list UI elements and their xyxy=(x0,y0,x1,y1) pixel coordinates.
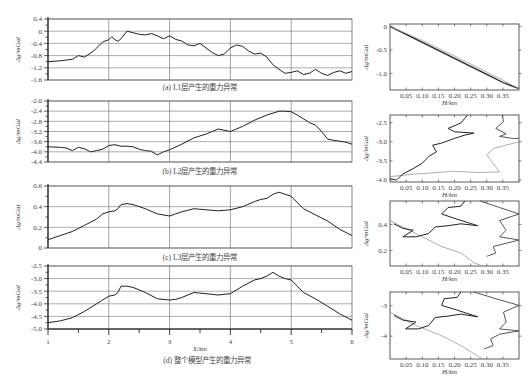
y-tick-label: -0.4 xyxy=(31,40,43,48)
y-axis-title: Δg/mGal xyxy=(362,44,370,70)
y-tick-label: -1.0 xyxy=(376,70,388,78)
y-tick-label: 0.4 xyxy=(33,15,42,23)
series-right xyxy=(480,201,519,256)
y-axis-title: Δg/mGal xyxy=(14,37,22,63)
y-tick-label: -0.8 xyxy=(31,52,43,60)
chart-a: 0.40-0.4-0.8-1.2-1.6Δg/mGal xyxy=(14,15,352,84)
x-axis-title: X/km xyxy=(192,345,207,353)
x-tick-label: 0.05 xyxy=(400,92,413,100)
y-axis-title: Δg/mGal xyxy=(362,136,370,162)
chart-c-right: 0.050.100.150.200.250.300.35H/km0.40.2Δg… xyxy=(362,201,522,283)
y-axis-title: Δg/mGal xyxy=(362,313,370,339)
x-tick-label: 0.05 xyxy=(400,268,413,276)
data-line xyxy=(48,111,352,155)
y-tick-label: -2.5 xyxy=(31,262,43,270)
series-right xyxy=(474,292,519,349)
chart-c: 0.60.40.20Δg/mGal xyxy=(14,182,352,252)
y-tick-label: -3.6 xyxy=(31,138,43,146)
x-tick-label: 0.30 xyxy=(481,184,494,192)
x-tick-label: 0.10 xyxy=(416,268,429,276)
y-tick-label: -4.5 xyxy=(31,313,43,321)
y-tick-label: 0.2 xyxy=(33,224,42,232)
y-tick-label: -5.0 xyxy=(31,325,43,333)
right-depth-charts: 0.050.100.150.200.250.300.35H/km0-0.5-1.… xyxy=(362,23,522,376)
y-tick-label: -3.2 xyxy=(31,128,43,136)
caption-b: (b) L2层产生的重力异常 xyxy=(163,166,238,176)
caption-a: (a) L1层产生的重力异常 xyxy=(163,82,238,92)
y-tick-label: -4.0 xyxy=(31,300,43,308)
y-tick-label: -3.5 xyxy=(376,157,388,165)
y-tick-label: -3.5 xyxy=(31,288,43,296)
caption-c: (c) L3层产生的重力异常 xyxy=(163,252,238,262)
y-tick-label: 0.4 xyxy=(33,203,42,211)
x-tick-label: 0.30 xyxy=(481,361,494,369)
data-line xyxy=(48,272,352,322)
data-line xyxy=(48,192,352,240)
y-tick-label: 0.6 xyxy=(33,182,42,190)
y-tick-label: -4.0 xyxy=(376,176,388,184)
series-dark xyxy=(394,201,478,237)
x-tick-label: 0.10 xyxy=(416,184,429,192)
y-tick-label: -3.0 xyxy=(31,275,43,283)
x-tick-label: 3 xyxy=(168,338,172,346)
chart-b-right: 0.050.100.150.200.250.300.35H/km-2.5-3.0… xyxy=(362,115,522,199)
captions: (a) L1层产生的重力异常 (b) L2层产生的重力异常 (c) L3层产生的… xyxy=(163,82,251,365)
x-tick-label: 0.30 xyxy=(481,92,494,100)
series-light xyxy=(390,312,483,359)
x-axis-title: H/km xyxy=(441,368,457,376)
x-tick-label: 6 xyxy=(350,338,354,346)
chart-d: -2.5-3.0-3.5-4.0-4.5-5.0Δg/mGal123456 xyxy=(14,262,354,346)
left-profile-charts: 0.40-0.4-0.8-1.2-1.6Δg/mGal-2.0-2.4-2.8-… xyxy=(14,15,354,346)
caption-d: (d) 整个模型产生的重力异常 xyxy=(163,355,251,365)
y-tick-label: 0.4 xyxy=(378,221,387,229)
y-axis-title: Δg/mGal xyxy=(362,221,370,247)
y-tick-label: -4.0 xyxy=(31,148,43,156)
y-axis-title: Δg/mGal xyxy=(14,119,22,145)
y-tick-label: -4.4 xyxy=(31,158,43,166)
data-line xyxy=(48,31,352,75)
y-tick-label: -1.2 xyxy=(31,64,43,72)
x-tick-label: 0.10 xyxy=(416,92,429,100)
x-tick-label: 0.10 xyxy=(416,361,429,369)
x-tick-label: 0.35 xyxy=(497,184,510,192)
y-tick-label: -0.5 xyxy=(376,46,388,54)
x-axis-title: H/km xyxy=(441,275,457,283)
y-tick-label: -4 xyxy=(381,332,387,340)
x-tick-label: 0.35 xyxy=(497,361,510,369)
y-tick-label: -2.5 xyxy=(376,119,388,127)
x-tick-label: 0.35 xyxy=(497,92,510,100)
y-tick-label: -2.4 xyxy=(31,107,43,115)
x-tick-label: 0.35 xyxy=(497,268,510,276)
y-tick-label: 0 xyxy=(384,23,388,31)
x-tick-label: 0.05 xyxy=(400,361,413,369)
series-right xyxy=(496,115,519,138)
x-axis-title: H/km xyxy=(441,191,457,199)
chart-b: -2.0-2.4-2.8-3.2-3.6-4.0-4.4Δg/mGal xyxy=(14,97,352,166)
x-tick-label: 4 xyxy=(229,338,233,346)
x-tick-label: 0.30 xyxy=(481,268,494,276)
series-dark xyxy=(394,292,478,329)
x-tick-label: 0.25 xyxy=(465,92,478,100)
x-tick-label: 1 xyxy=(46,338,50,346)
y-tick-label: -2.8 xyxy=(31,118,43,126)
figure-canvas: 0.40-0.4-0.8-1.2-1.6Δg/mGal-2.0-2.4-2.8-… xyxy=(0,0,531,388)
series-light xyxy=(390,142,519,177)
y-tick-label: -1.6 xyxy=(31,76,43,84)
x-axis-title: H/km xyxy=(441,99,457,107)
y-tick-label: -3.0 xyxy=(376,138,388,146)
x-tick-label: 0.25 xyxy=(465,268,478,276)
y-axis-title: Δg/mGal xyxy=(14,204,22,230)
x-tick-label: 0.05 xyxy=(400,184,413,192)
y-tick-label: 0 xyxy=(39,28,43,36)
series-dark xyxy=(390,26,519,88)
x-tick-label: 2 xyxy=(107,338,111,346)
series-dark xyxy=(390,115,474,180)
y-tick-label: 0.2 xyxy=(378,247,387,255)
x-tick-label: 0.25 xyxy=(465,361,478,369)
chart-a-right: 0.050.100.150.200.250.300.35H/km0-0.5-1.… xyxy=(362,23,522,107)
y-axis-title: Δg/mGal xyxy=(14,285,22,311)
y-tick-label: 0 xyxy=(39,244,43,252)
y-tick-label: -2.0 xyxy=(31,97,43,105)
chart-d-right: 0.050.100.150.200.250.300.35H/km-3-4Δg/m… xyxy=(362,292,522,376)
x-tick-label: 0.25 xyxy=(465,184,478,192)
